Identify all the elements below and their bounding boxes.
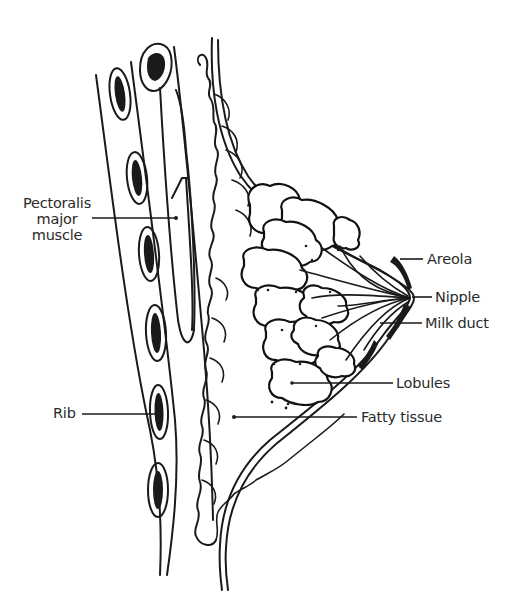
label-pectoralis-line-1: Pectoralis [22, 195, 92, 211]
rib-5 [145, 305, 168, 362]
rib-7 [148, 463, 168, 517]
label-pectoralis-line-3: muscle [22, 227, 92, 243]
label-fatty-tissue: Fatty tissue [361, 409, 442, 425]
label-nipple: Nipple [435, 289, 480, 305]
label-milk-duct: Milk duct [425, 315, 489, 331]
label-areola: Areola [427, 251, 472, 267]
rib-2 [106, 67, 133, 121]
rib-1 [140, 44, 172, 91]
lobules [242, 184, 360, 409]
pectoralis-major-muscle [160, 88, 195, 342]
label-rib: Rib [53, 405, 76, 421]
label-lobules: Lobules [396, 375, 450, 391]
label-pectoralis-major-muscle: Pectoralis major muscle [22, 195, 92, 243]
rib-4 [137, 226, 161, 281]
rib-6 [149, 385, 169, 440]
label-pectoralis-line-2: major [22, 211, 92, 227]
